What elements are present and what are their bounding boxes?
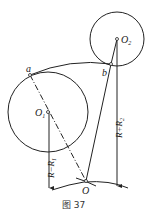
diagram: a b O1 O2 O R−R1 R+R2 图 37 [0, 0, 146, 214]
point-b [110, 63, 113, 66]
label-b: b [102, 67, 107, 78]
point-o [85, 180, 88, 183]
label-r-plus-r2: R+R2 [114, 118, 125, 139]
figure-caption: 图 37 [62, 200, 85, 210]
tangent-arc-ab [30, 62, 111, 75]
label-o1: O1 [35, 107, 45, 119]
label-o: O [82, 185, 89, 196]
label-r-minus-r1: R−R1 [46, 158, 57, 179]
label-a: a [26, 63, 31, 74]
geometry-figure: a b O1 O2 O R−R1 R+R2 图 37 [0, 0, 146, 214]
line-o2-b [111, 39, 117, 64]
line-b-o [86, 64, 111, 181]
point-o1 [47, 111, 50, 114]
line-a-o [30, 75, 86, 181]
point-o2 [116, 38, 119, 41]
label-o2: O2 [121, 34, 131, 46]
